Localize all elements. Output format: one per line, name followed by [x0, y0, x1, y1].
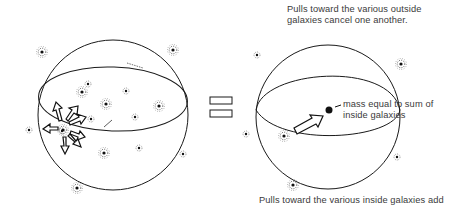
center-mass-dot — [326, 107, 333, 114]
caption-top-line1: Pulls toward the various outside — [287, 4, 421, 15]
left-force-arrows — [43, 102, 86, 154]
equals-sign — [210, 97, 232, 117]
left-equator-ellipse — [37, 64, 188, 133]
center-galaxy-left — [58, 125, 69, 136]
caption-bottom: Pulls toward the various inside galaxies… — [259, 195, 444, 206]
mass-pointer-icon — [335, 105, 341, 107]
net-pull-arrow — [294, 115, 323, 134]
caption-top-line2: galaxies cancel one another. — [287, 15, 408, 26]
caption-mass-line2: inside galaxies — [343, 110, 405, 121]
caption-mass-line1: mass equal to sum of — [343, 99, 433, 110]
